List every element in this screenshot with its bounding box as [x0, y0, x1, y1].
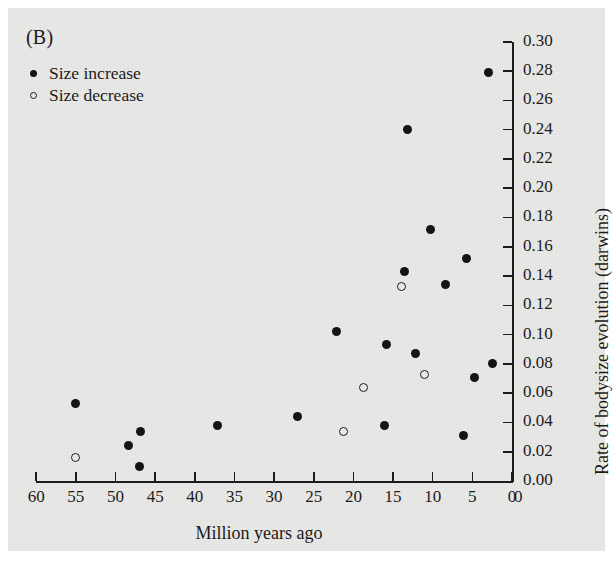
x-axis-tick-label: 45 [135, 487, 175, 507]
data-point-size-increase [135, 462, 144, 471]
y-axis-tick-label: 0.30 [523, 31, 553, 51]
data-point-size-increase [488, 359, 497, 368]
x-axis-tick [194, 472, 196, 481]
x-axis-tick [35, 472, 37, 481]
x-axis-origin-label: 0 [514, 487, 523, 507]
y-axis-tick [503, 305, 512, 307]
data-point-size-increase [459, 431, 468, 440]
x-axis-tick-label: 30 [254, 487, 294, 507]
x-axis-line [36, 481, 513, 483]
y-axis-tick [503, 187, 512, 189]
data-point-size-increase [71, 399, 80, 408]
x-axis-tick [75, 472, 77, 481]
data-point-size-increase [441, 280, 450, 289]
y-axis-tick-label: 0.28 [523, 60, 553, 80]
data-point-size-decrease [71, 453, 80, 462]
y-axis-tick-label: 0.06 [523, 382, 553, 402]
x-axis-tick [115, 472, 117, 481]
y-axis-tick-label: 0.08 [523, 353, 553, 373]
x-axis-tick-label: 5 [452, 487, 492, 507]
y-axis-tick [503, 217, 512, 219]
data-point-size-increase [470, 373, 479, 382]
y-axis-tick [503, 129, 512, 131]
data-point-size-increase [213, 421, 222, 430]
y-axis-tick-label: 0.12 [523, 294, 553, 314]
data-point-size-increase [380, 421, 389, 430]
legend-label-size-increase: Size increase [46, 62, 141, 84]
x-axis-tick [234, 472, 236, 481]
filled-circle-icon [30, 70, 46, 77]
x-axis-tick-label: 35 [214, 487, 254, 507]
x-axis-tick [154, 472, 156, 481]
x-axis-tick [313, 472, 315, 481]
legend-item-size-increase: Size increase [30, 62, 144, 84]
data-point-size-decrease [359, 383, 368, 392]
y-axis-tick [503, 158, 512, 160]
x-axis-tick-label: 60 [16, 487, 56, 507]
data-point-size-decrease [420, 370, 429, 379]
data-point-size-decrease [339, 427, 348, 436]
y-axis-line [512, 42, 514, 482]
y-axis-tick-label: 0.02 [523, 441, 553, 461]
data-point-size-increase [411, 349, 420, 358]
x-axis-tick [353, 472, 355, 481]
x-axis-tick-label: 0 [492, 487, 532, 507]
y-axis-tick [503, 451, 512, 453]
scatter-plot: (B) Size increase Size decrease 60555045… [0, 0, 613, 570]
data-point-size-increase [382, 340, 391, 349]
data-point-size-decrease [397, 282, 406, 291]
y-axis-tick-label: 0.18 [523, 206, 553, 226]
y-axis-title: Rate of bodysize evolution (darwins) [592, 208, 613, 475]
y-axis-tick-label: 0.24 [523, 119, 553, 139]
data-point-size-increase [332, 327, 341, 336]
y-axis-tick-label: 0.16 [523, 236, 553, 256]
data-point-size-increase [136, 427, 145, 436]
y-axis-tick [503, 246, 512, 248]
y-axis-tick [503, 422, 512, 424]
data-point-size-increase [462, 254, 471, 263]
x-axis-tick-label: 10 [413, 487, 453, 507]
y-axis-tick-label: 0.14 [523, 265, 553, 285]
legend-item-size-decrease: Size decrease [30, 84, 144, 106]
x-axis-tick [432, 472, 434, 481]
y-axis-tick-label: 0.04 [523, 411, 553, 431]
y-axis-tick [503, 363, 512, 365]
open-circle-icon [30, 92, 46, 99]
x-axis-tick-label: 55 [56, 487, 96, 507]
panel-label: (B) [26, 26, 53, 49]
y-axis-tick-label: 0.10 [523, 324, 553, 344]
y-axis-tick-label: 0.26 [523, 89, 553, 109]
y-axis-tick [503, 275, 512, 277]
x-axis-tick [273, 472, 275, 481]
y-axis-tick [503, 41, 512, 43]
y-axis-tick-label: 0.22 [523, 148, 553, 168]
data-point-size-increase [293, 412, 302, 421]
data-point-size-increase [403, 125, 412, 134]
x-axis-tick-label: 25 [294, 487, 334, 507]
legend-label-size-decrease: Size decrease [46, 84, 144, 106]
x-axis-tick [472, 472, 474, 481]
data-point-size-increase [124, 441, 133, 450]
y-axis-tick [503, 334, 512, 336]
y-axis-tick-label: 0.00 [523, 470, 553, 490]
y-axis-tick [503, 100, 512, 102]
x-axis-tick [392, 472, 394, 481]
y-axis-tick-label: 0.20 [523, 177, 553, 197]
y-axis-tick [503, 70, 512, 72]
legend: Size increase Size decrease [30, 62, 144, 106]
x-axis-tick [511, 472, 513, 481]
data-point-size-increase [426, 225, 435, 234]
x-axis-tick-label: 40 [175, 487, 215, 507]
data-point-size-increase [484, 68, 493, 77]
x-axis-tick-label: 20 [333, 487, 373, 507]
y-axis-tick [503, 392, 512, 394]
data-point-size-increase [400, 267, 409, 276]
x-axis-title: Million years ago [0, 523, 613, 544]
x-axis-tick-label: 15 [373, 487, 413, 507]
x-axis-tick-label: 50 [96, 487, 136, 507]
